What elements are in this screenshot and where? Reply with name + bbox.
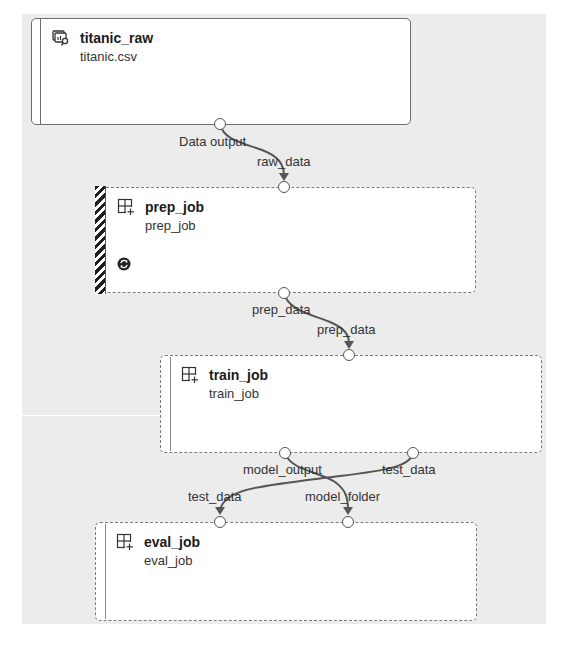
port-train-test-data-out[interactable] bbox=[407, 447, 419, 459]
node-title: train_job bbox=[209, 367, 268, 383]
dataset-icon bbox=[52, 29, 70, 47]
port-eval-model-folder[interactable] bbox=[342, 516, 354, 528]
node-title: eval_job bbox=[144, 534, 200, 550]
running-status-stripe bbox=[95, 186, 106, 294]
port-label-raw-data: raw_data bbox=[257, 154, 310, 169]
node-left-rule bbox=[170, 357, 171, 451]
node-subtitle: titanic.csv bbox=[80, 49, 137, 64]
node-prep-job[interactable]: prep_job prep_job bbox=[96, 187, 476, 293]
port-prep-raw-data[interactable] bbox=[278, 181, 290, 193]
port-titanic-data-output[interactable] bbox=[214, 118, 226, 130]
port-prep-prep-data-out[interactable] bbox=[278, 287, 290, 299]
node-subtitle: train_job bbox=[209, 386, 259, 401]
node-subtitle: eval_job bbox=[144, 553, 192, 568]
node-title: prep_job bbox=[145, 199, 204, 215]
component-icon bbox=[181, 366, 199, 384]
port-label-test-data-out: test_data bbox=[382, 462, 436, 477]
node-subtitle: prep_job bbox=[145, 218, 196, 233]
port-label-model-folder: model_folder bbox=[305, 489, 380, 504]
port-label-model-output: model_output bbox=[243, 462, 322, 477]
port-train-model-output[interactable] bbox=[279, 447, 291, 459]
port-label-prep-data-out: prep_data bbox=[252, 302, 311, 317]
node-title: titanic_raw bbox=[80, 30, 153, 46]
node-eval-job[interactable]: eval_job eval_job bbox=[95, 522, 477, 621]
port-eval-test-data-in[interactable] bbox=[214, 516, 226, 528]
port-label-data-output: Data output bbox=[179, 134, 246, 149]
component-icon bbox=[116, 533, 134, 551]
port-label-test-data-in: test_data bbox=[188, 489, 242, 504]
component-icon bbox=[117, 198, 135, 216]
port-train-prep-data-in[interactable] bbox=[343, 349, 355, 361]
running-icon bbox=[117, 257, 131, 271]
canvas-seam bbox=[22, 415, 182, 416]
port-label-prep-data-in: prep_data bbox=[317, 322, 376, 337]
node-left-rule bbox=[105, 524, 106, 619]
node-titanic-raw[interactable]: titanic_raw titanic.csv bbox=[31, 18, 411, 125]
node-train-job[interactable]: train_job train_job bbox=[160, 355, 542, 453]
